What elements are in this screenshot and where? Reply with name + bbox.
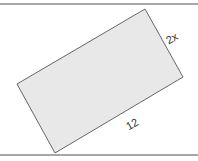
short-side-label: 2x bbox=[164, 30, 180, 46]
diagram-svg: 2x 12 bbox=[0, 0, 198, 161]
diagram-canvas: 2x 12 bbox=[0, 0, 198, 161]
rotated-rectangle bbox=[17, 9, 183, 153]
long-side-label: 12 bbox=[124, 116, 141, 133]
